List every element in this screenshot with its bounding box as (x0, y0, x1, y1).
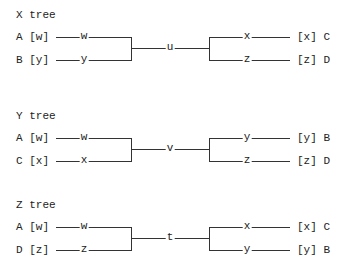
node-label: z (243, 53, 252, 65)
edge (56, 138, 131, 139)
edge (131, 227, 132, 251)
edge (56, 37, 131, 38)
edge (209, 37, 210, 61)
left-leaf-label: B [y] (16, 54, 49, 66)
node-label: x (243, 220, 252, 232)
node-label: w (80, 30, 89, 42)
right-leaf-label: [z] D (297, 54, 330, 66)
right-leaf-label: [y] B (297, 244, 330, 256)
node-label: y (80, 53, 89, 65)
right-leaf-label: [x] C (297, 31, 330, 43)
node-label: w (80, 131, 89, 143)
y-tree: Y tree A [w] C [x] w x v y z [y] B [z] D (0, 110, 353, 190)
root-node-label: v (166, 142, 175, 154)
root-node-label: u (166, 41, 175, 53)
edge (209, 138, 210, 162)
left-leaf-label: D [z] (16, 244, 49, 256)
left-leaf-label: A [w] (16, 221, 49, 233)
edge (131, 37, 132, 61)
edge (56, 250, 131, 251)
tree-title: Z tree (16, 199, 56, 211)
z-tree: Z tree A [w] D [z] w z t x y [x] C [y] B (0, 199, 353, 268)
tree-title: Y tree (16, 110, 56, 122)
root-node-label: t (166, 231, 175, 243)
edge (131, 138, 132, 162)
edge (56, 227, 131, 228)
right-leaf-label: [x] C (297, 221, 330, 233)
left-leaf-label: A [w] (16, 132, 49, 144)
node-label: w (80, 220, 89, 232)
right-leaf-label: [y] B (297, 132, 330, 144)
tree-title: X tree (16, 9, 56, 21)
node-label: y (243, 243, 252, 255)
edge (209, 227, 210, 251)
node-label: y (243, 131, 252, 143)
left-leaf-label: C [x] (16, 155, 49, 167)
edge (56, 161, 131, 162)
edge (56, 60, 131, 61)
node-label: x (80, 154, 89, 166)
node-label: x (243, 30, 252, 42)
right-leaf-label: [z] D (297, 155, 330, 167)
x-tree: X tree A [w] B [y] w y u x z [x] C [z] D (0, 9, 353, 89)
node-label: z (243, 154, 252, 166)
left-leaf-label: A [w] (16, 31, 49, 43)
node-label: z (80, 243, 89, 255)
